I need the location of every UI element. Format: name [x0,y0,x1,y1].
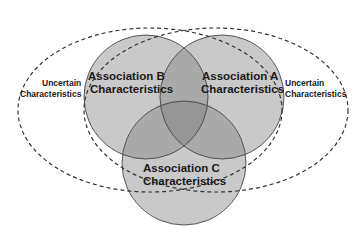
label-uncertain-left: Uncertain [42,78,81,88]
label-uncertain-right-line2: Characteristics [285,89,347,99]
venn-diagram: Association B Characteristics Associatio… [0,0,364,229]
label-uncertain-left-line2: Characteristics [20,89,82,99]
label-association-a-line2: Characteristics [201,83,284,95]
label-association-a: Association A [202,70,278,82]
label-association-b-line2: Characteristics [90,83,173,95]
label-association-b: Association B [88,70,165,82]
label-association-c-line2: Characteristics [143,175,226,187]
label-association-c: Association C [143,162,220,174]
label-uncertain-right: Uncertain [285,78,324,88]
